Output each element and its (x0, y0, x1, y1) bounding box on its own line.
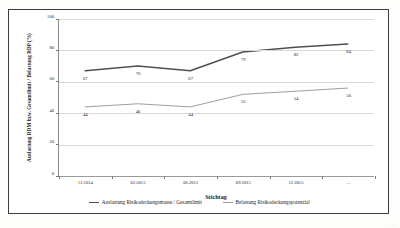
plot-area: 02040608010012.201403.201506.201509.2015… (58, 19, 374, 176)
x-tick-mark (270, 176, 271, 179)
legend-line-icon (223, 202, 233, 203)
legend-label: Belastung Risikodeckungspotenzial (235, 200, 309, 205)
y-tick-label: 80 (49, 46, 54, 51)
chart-figure-frame: Auslastung RDM bzw. Gesamtlimit / Belast… (8, 9, 389, 214)
x-tick-mark (59, 176, 60, 179)
gridline-y-60 (59, 82, 374, 83)
scan-artifact: .... (390, 221, 396, 226)
data-label: 44 (83, 113, 88, 118)
gridline-y-20 (59, 145, 374, 146)
series-line-1 (85, 88, 348, 107)
data-label: 52 (241, 100, 246, 105)
y-tick-label: 0 (52, 172, 54, 177)
data-label: 84 (346, 50, 351, 55)
data-label: 44 (188, 113, 193, 118)
y-tick-mark (56, 19, 59, 20)
y-tick-mark (56, 144, 59, 145)
y-tick-label: 60 (49, 77, 54, 82)
x-tick-label: 12.2015 (289, 181, 304, 186)
legend-item-1[interactable]: Belastung Risikodeckungspotenzial (223, 200, 310, 205)
x-tick-label: ... (347, 181, 350, 186)
legend-line-icon (89, 202, 99, 203)
x-tick-label: 06.2015 (183, 181, 198, 186)
legend-label: Auslastung Risikodeckungsmasse / Gesamtl… (102, 200, 202, 205)
chart-legend: Auslastung Risikodeckungsmasse / Gesamtl… (9, 200, 390, 205)
data-label: 82 (294, 53, 299, 58)
x-tick-mark (112, 176, 113, 179)
x-tick-mark (217, 176, 218, 179)
legend-item-0[interactable]: Auslastung Risikodeckungsmasse / Gesamtl… (89, 200, 202, 205)
series-lines (59, 19, 374, 176)
x-tick-label: 12.2014 (78, 181, 93, 186)
y-tick-mark (56, 50, 59, 51)
data-label: 79 (241, 58, 246, 63)
data-label: 46 (136, 110, 141, 115)
y-tick-mark (56, 81, 59, 82)
x-tick-label: 09.2015 (236, 181, 251, 186)
y-tick-label: 40 (49, 109, 54, 114)
x-tick-mark (164, 176, 165, 179)
gridline-y-40 (59, 113, 374, 114)
y-tick-mark (56, 113, 59, 114)
y-tick-label: 20 (49, 140, 54, 145)
data-label: 54 (294, 97, 299, 102)
gridline-y-80 (59, 50, 374, 51)
x-tick-mark (322, 176, 323, 179)
y-tick-label: 100 (47, 15, 54, 20)
data-label: 70 (136, 72, 141, 77)
x-tick-label: 03.2015 (131, 181, 146, 186)
x-tick-mark (375, 176, 376, 179)
scanned-page: Auslastung RDM bzw. Gesamtlimit / Belast… (0, 0, 400, 228)
data-label: 67 (188, 77, 193, 82)
y-axis-title: Auslastung RDM bzw. Gesamtlimit / Belast… (22, 19, 36, 176)
series-line-0 (85, 44, 348, 71)
gridline-y-100 (59, 19, 374, 20)
data-label: 67 (83, 77, 88, 82)
data-label: 56 (346, 94, 351, 99)
